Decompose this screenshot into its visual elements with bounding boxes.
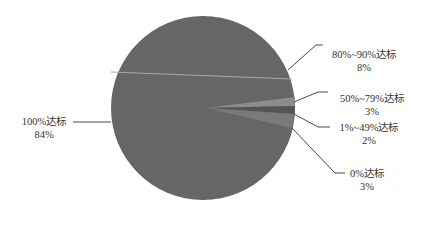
data-label-80-90: 80%~90%达标 8% [320,48,408,74]
label-name: 50%~79%达标 [328,92,416,105]
label-name: 80%~90%达标 [320,48,408,61]
label-pct: 84% [14,128,74,141]
label-name: 100%达标 [14,115,74,128]
leader-line-1-49 [294,114,330,127]
label-pct: 3% [343,180,391,193]
leader-line-80-90 [288,45,323,70]
leader-line-50-79 [294,92,328,102]
label-name: 0%达标 [343,167,391,180]
data-label-50-79: 50%~79%达标 3% [328,92,416,118]
data-label-1-49: 1%~49%达标 2% [328,121,410,147]
data-label-100: 100%达标 84% [14,115,74,141]
label-pct: 2% [328,134,410,147]
data-label-0: 0%达标 3% [343,167,391,193]
label-pct: 3% [328,105,416,118]
label-name: 1%~49%达标 [328,121,410,134]
label-pct: 8% [320,61,408,74]
